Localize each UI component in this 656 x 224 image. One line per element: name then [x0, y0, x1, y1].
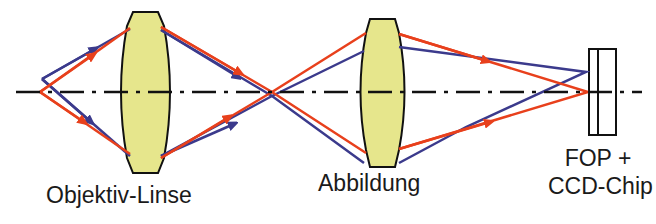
- fop-label: FOP +: [548, 145, 648, 171]
- ccd-chip-label: CCD-Chip: [548, 173, 653, 199]
- objective-lens-label: Objektiv-Linse: [46, 182, 192, 208]
- imaging-lens-label: Abbildung: [318, 170, 420, 196]
